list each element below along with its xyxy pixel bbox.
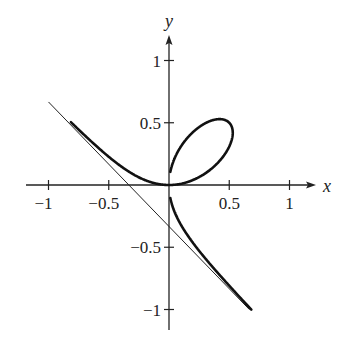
plot-canvas: −1−0.50.5110.5−0.5−1 x y: [0, 0, 353, 345]
x-axis-label: x: [322, 176, 331, 196]
x-tick-label: −0.5: [88, 194, 119, 213]
y-tick-label: 0.5: [140, 114, 161, 133]
folium-lower-branch: [170, 198, 251, 310]
axes: −1−0.50.5110.5−0.5−1: [26, 35, 316, 330]
y-tick-label: 1: [153, 52, 162, 71]
y-axis-label: y: [163, 11, 173, 31]
x-tick-label: −1: [34, 194, 52, 213]
x-tick-label: 1: [285, 194, 294, 213]
y-tick-label: −1: [143, 301, 161, 320]
y-tick-label: −0.5: [130, 238, 161, 257]
x-tick-label: 0.5: [219, 194, 240, 213]
